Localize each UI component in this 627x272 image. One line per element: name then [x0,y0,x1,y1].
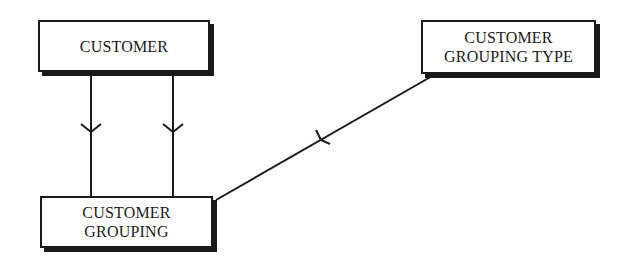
entity-label: CUSTOMER [80,37,168,56]
relationship-line-diagonal [216,75,434,200]
relationship-line-right [163,74,183,196]
entity-label-line-1: CUSTOMER [464,28,552,47]
entity-customer-grouping-type: CUSTOMER GROUPING TYPE [421,20,596,74]
entity-label-line-2: GROUPING [84,222,168,241]
relationship-line-left [81,74,101,196]
entity-customer: CUSTOMER [38,20,210,72]
entity-customer-grouping: CUSTOMER GROUPING [40,196,213,248]
er-diagram: CUSTOMER CUSTOMER GROUPING TYPE CUSTOMER… [0,0,627,272]
entity-label-line-2: GROUPING TYPE [444,47,573,66]
entity-label-line-1: CUSTOMER [82,203,170,222]
